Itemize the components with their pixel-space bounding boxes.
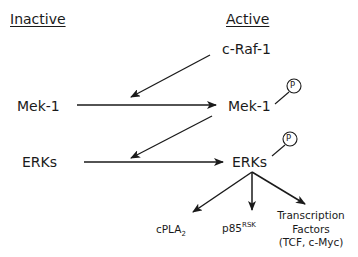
node-mek1-inactive: Mek-1 <box>17 99 60 113</box>
phospho-bond-erks <box>272 145 285 156</box>
tf-line1: Transcription <box>270 209 352 223</box>
arrow-mek1-to-erks <box>131 116 212 158</box>
target-p85rsk-sup: RSK <box>242 221 256 229</box>
target-cpla2-sub: 2 <box>181 230 185 238</box>
arrow-erks-to-transcription-factors <box>252 172 305 204</box>
phospho-label-erks: P <box>286 134 291 143</box>
header-inactive: Inactive <box>10 12 66 26</box>
target-p85rsk-base: p85 <box>222 222 242 234</box>
phospho-label-mek1: P <box>290 81 295 90</box>
tf-line3: (TCF, c-Myc) <box>270 236 352 250</box>
node-erks-active: ERKs <box>232 155 267 169</box>
node-erks-inactive: ERKs <box>22 155 57 169</box>
target-cpla2-base: cPLA <box>156 223 181 235</box>
node-mek1-active: Mek-1 <box>228 99 271 113</box>
header-active: Active <box>226 12 269 26</box>
tf-line2: Factors <box>270 223 352 237</box>
phospho-bond-mek1 <box>275 92 289 104</box>
target-p85rsk: p85RSK <box>222 222 256 233</box>
arrow-erks-to-cpla2 <box>193 172 252 212</box>
target-transcription-factors: Transcription Factors (TCF, c-Myc) <box>270 209 352 250</box>
arrow-craf1-to-mek1 <box>131 55 210 97</box>
target-cpla2: cPLA2 <box>156 224 186 238</box>
node-craf1: c-Raf-1 <box>222 42 271 56</box>
